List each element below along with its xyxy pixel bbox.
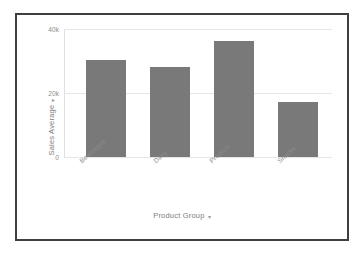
x-axis-title-text: Product Group (153, 211, 204, 220)
chevron-down-icon[interactable]: ▾ (208, 213, 211, 220)
visualization-frame: 40k 20k 0 Beverages Dairy Produce Snacks… (15, 13, 349, 241)
y-axis-title[interactable]: Sales Average▾ (47, 98, 56, 155)
bars-layer (64, 29, 332, 157)
gridline-0: 0 (64, 157, 332, 158)
plot-area: 40k 20k 0 (64, 29, 332, 157)
chevron-down-icon[interactable]: ▾ (49, 98, 56, 101)
bar-dairy[interactable] (150, 67, 190, 157)
y-axis-title-text: Sales Average (47, 105, 56, 156)
x-axis-title[interactable]: Product Group▾ (17, 211, 347, 220)
y-tick-label-20k: 20k (48, 90, 59, 97)
bar-chart: 40k 20k 0 Beverages Dairy Produce Snacks… (17, 15, 347, 239)
bar-snacks[interactable] (278, 102, 318, 157)
bar-produce[interactable] (214, 41, 254, 157)
y-tick-label-40k: 40k (48, 26, 59, 33)
x-tick-labels: Beverages Dairy Produce Snacks (64, 159, 332, 205)
